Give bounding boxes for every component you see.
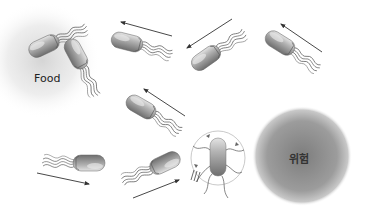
bacterium <box>119 148 183 190</box>
food-label: Food <box>34 72 60 85</box>
bacterium <box>123 92 186 138</box>
bacterium <box>109 30 174 61</box>
direction-arrow <box>187 19 232 48</box>
bacterium <box>262 28 324 75</box>
direction-arrow <box>121 22 172 36</box>
danger-label: 위험 <box>289 150 309 166</box>
direction-arrow <box>37 173 89 184</box>
tumbling-bacterium <box>191 131 245 198</box>
chemotaxis-diagram <box>0 0 365 218</box>
bacterium <box>42 154 105 171</box>
direction-arrow <box>133 180 179 198</box>
bacterium <box>188 24 249 74</box>
